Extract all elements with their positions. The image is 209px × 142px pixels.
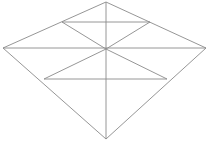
diamond-figure-svg	[0, 0, 209, 142]
figure-background	[0, 0, 209, 142]
diagram-canvas	[0, 0, 209, 142]
